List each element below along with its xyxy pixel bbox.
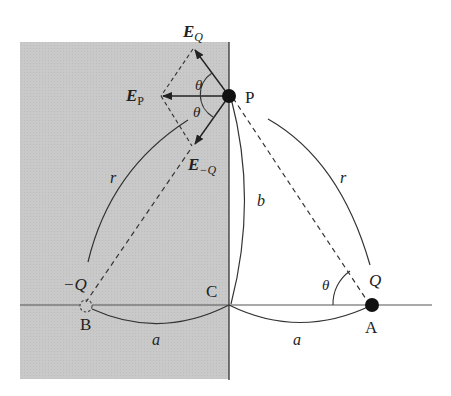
label-theta-lower: θ bbox=[193, 104, 201, 120]
label-negQ: −Q bbox=[63, 275, 87, 294]
label-r-left: r bbox=[110, 169, 117, 186]
label-a-left: a bbox=[152, 331, 160, 348]
label-r-right: r bbox=[340, 169, 347, 186]
label-a-right: a bbox=[293, 331, 301, 348]
arc-r-right bbox=[268, 119, 370, 265]
label-theta-upper: θ bbox=[195, 77, 203, 93]
label-E-Q: EQ bbox=[182, 22, 203, 44]
arc-a-right bbox=[229, 305, 372, 323]
label-Q: Q bbox=[369, 271, 381, 290]
charge-A bbox=[365, 298, 379, 312]
point-P bbox=[222, 89, 236, 103]
diagram-canvas: EQ EP E−Q θ θ θ P A B C Q −Q a a b r r bbox=[0, 0, 451, 396]
dashed-line-P-to-A bbox=[233, 98, 368, 302]
arc-b bbox=[231, 98, 245, 304]
label-theta-A: θ bbox=[322, 277, 330, 293]
angle-arc-A bbox=[333, 271, 350, 305]
label-C: C bbox=[206, 282, 217, 301]
label-A: A bbox=[365, 318, 378, 337]
label-P: P bbox=[245, 88, 254, 107]
label-b: b bbox=[257, 192, 265, 209]
label-B: B bbox=[80, 315, 91, 334]
